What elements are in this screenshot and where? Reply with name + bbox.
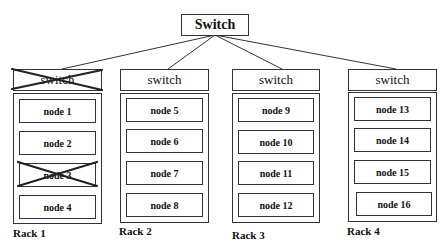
node-16: node 16	[356, 192, 432, 216]
node-5: node 5	[126, 98, 203, 122]
node-label: node 6	[150, 136, 178, 147]
rack-switch-label: switch	[41, 72, 75, 88]
node-label: node 8	[150, 200, 178, 211]
rack-switch-label: switch	[259, 72, 293, 88]
node-label: node 2	[43, 138, 71, 149]
rack-3-label: Rack 3	[232, 229, 265, 241]
node-label: node 4	[43, 202, 71, 213]
node-label: node 10	[259, 137, 292, 148]
node-10: node 10	[238, 130, 314, 154]
node-label: node 11	[260, 168, 293, 179]
node-label: node 3	[43, 170, 71, 181]
node-14: node 14	[354, 128, 431, 152]
node-label: node 5	[150, 105, 178, 116]
node-11: node 11	[238, 161, 314, 185]
node-13: node 13	[354, 97, 431, 121]
node-label: node 13	[376, 104, 409, 115]
rack-switch-label: switch	[148, 72, 182, 88]
node-label: node 12	[259, 200, 292, 211]
rack-1-switch: switch	[13, 69, 102, 91]
node-2: node 2	[19, 131, 96, 155]
node-label: node 16	[377, 199, 410, 210]
node-label: node 1	[43, 106, 71, 117]
node-3: node 3	[19, 163, 96, 187]
rack-4-switch: switch	[348, 69, 437, 91]
rack-4-label: Rack 4	[347, 225, 380, 237]
core-switch-label: Switch	[195, 17, 235, 33]
rack-3-switch: switch	[232, 69, 320, 91]
node-4: node 4	[19, 195, 96, 219]
node-1: node 1	[19, 99, 96, 123]
rack-2-switch: switch	[120, 69, 209, 91]
node-6: node 6	[126, 129, 203, 153]
rack-1-label: Rack 1	[13, 227, 46, 239]
node-label: node 14	[376, 135, 409, 146]
node-label: node 9	[262, 105, 290, 116]
node-8: node 8	[126, 193, 203, 217]
node-label: node 7	[150, 168, 178, 179]
rack-switch-label: switch	[376, 72, 410, 88]
node-15: node 15	[354, 160, 431, 184]
node-9: node 9	[238, 98, 314, 122]
node-12: node 12	[238, 193, 314, 217]
rack-2-label: Rack 2	[119, 225, 152, 237]
node-7: node 7	[126, 161, 203, 185]
node-label: node 15	[376, 167, 409, 178]
core-switch: Switch	[181, 14, 249, 36]
